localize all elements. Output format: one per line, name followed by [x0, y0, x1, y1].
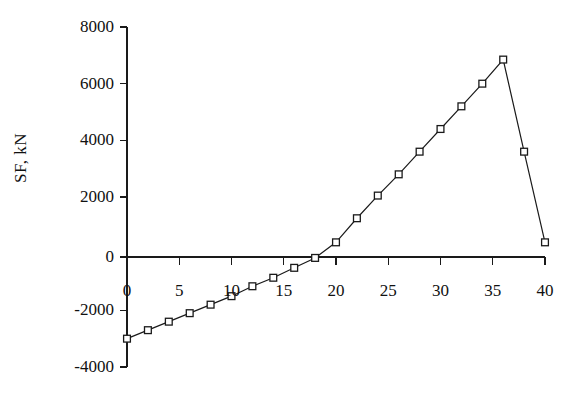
y-tick-label: 0 [0, 247, 114, 267]
x-tick-label: 35 [484, 281, 501, 301]
chart-figure: SF, kN -4000-200002000400060008000 05101… [0, 0, 582, 400]
x-tick-label: 20 [328, 281, 345, 301]
x-tick-label: 5 [175, 281, 184, 301]
x-tick-label: 40 [537, 281, 554, 301]
x-tick-label: 10 [223, 281, 240, 301]
y-tick-label: 6000 [0, 74, 114, 94]
y-tick-label: 4000 [0, 130, 114, 150]
x-tick-label: 0 [123, 281, 132, 301]
x-tick-label: 25 [380, 281, 397, 301]
y-tick-label: -4000 [0, 357, 114, 377]
x-tick-label: 15 [275, 281, 292, 301]
x-axis-tickmarks [127, 257, 545, 265]
y-tick-label: 8000 [0, 17, 114, 37]
y-tick-label: 2000 [0, 187, 114, 207]
y-tick-label: -2000 [0, 300, 114, 320]
x-tick-label: 30 [432, 281, 449, 301]
y-axis-tickmarks [120, 27, 127, 367]
